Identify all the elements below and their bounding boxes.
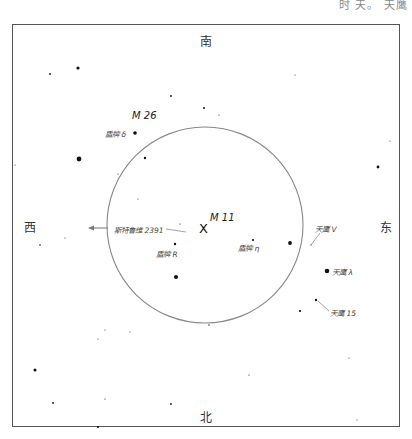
star-dot	[105, 330, 106, 331]
scutum-eta-label: 盾牌 η	[238, 242, 259, 253]
star-dot	[144, 157, 146, 159]
star-dot	[77, 157, 82, 162]
aquila-v-leader-line	[311, 233, 320, 245]
star-dot	[248, 374, 249, 375]
star-dot	[133, 131, 137, 135]
m26-label: M 26	[132, 110, 157, 121]
star-dot	[98, 339, 99, 340]
star-dot	[97, 426, 99, 428]
star-dot	[65, 238, 66, 239]
star-dot	[349, 358, 350, 359]
aquila-15-label: 天鹰 15	[330, 307, 356, 318]
star-dot	[104, 398, 105, 399]
star-dot	[377, 166, 380, 169]
m11-label: M 11	[210, 212, 235, 223]
aquila-lambda-label: 天鹰 λ	[332, 266, 353, 277]
direction-north: 北	[200, 408, 212, 425]
star-dot	[174, 275, 178, 279]
star-dot	[49, 73, 51, 75]
scutum-delta-label: 盾牌 δ	[105, 128, 126, 139]
star-dot	[15, 165, 16, 166]
star-dot	[179, 223, 180, 224]
star-dot	[39, 244, 41, 246]
star-dot	[288, 241, 292, 245]
direction-east: 东	[380, 218, 392, 235]
direction-south: 南	[200, 32, 212, 49]
star-chart-canvas	[0, 0, 412, 439]
stephenson-leader-line	[166, 229, 186, 232]
m11-center-marker: X	[199, 221, 208, 236]
star-field	[15, 66, 391, 428]
scutum-r-label: 盾牌 R	[156, 248, 178, 259]
star-dot	[76, 66, 79, 69]
aquila-15-leader-line	[318, 301, 329, 311]
west-arrow-icon	[88, 226, 108, 231]
direction-west: 西	[24, 218, 36, 235]
star-dot	[325, 269, 330, 274]
star-dot	[170, 95, 172, 97]
star-dot	[208, 324, 209, 325]
star-dot	[299, 310, 301, 312]
stephenson-2391-label: 斯特鲁维 2391	[114, 224, 163, 235]
star-dot	[117, 173, 118, 174]
star-dot	[218, 114, 219, 115]
star-dot	[130, 332, 131, 333]
star-dot	[252, 239, 254, 241]
star-dot	[52, 402, 54, 404]
star-dot	[203, 107, 205, 109]
star-dot	[390, 141, 391, 142]
star-dot	[357, 420, 358, 421]
star-dot	[315, 299, 317, 301]
star-dot	[170, 403, 172, 405]
star-dot	[138, 199, 139, 200]
star-dot	[174, 243, 176, 245]
aquila-v-label: 天鹰 V	[315, 223, 337, 234]
star-dot	[295, 75, 296, 76]
star-dot	[34, 369, 37, 372]
